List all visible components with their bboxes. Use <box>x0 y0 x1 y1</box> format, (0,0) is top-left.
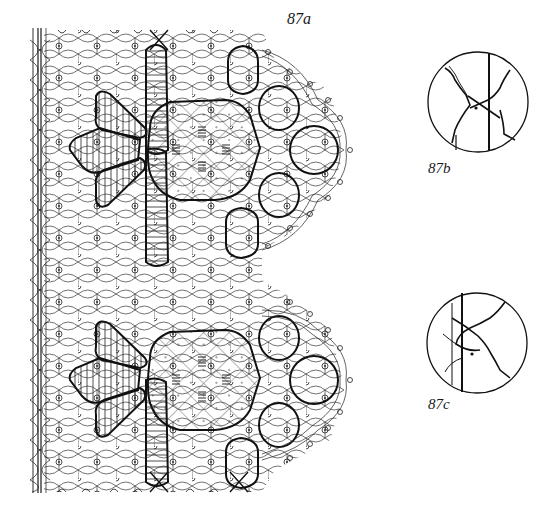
main-lace-pattern-87a <box>0 0 554 509</box>
detail-87c <box>427 293 527 393</box>
detail-87b <box>428 52 528 152</box>
figure-label-87b: 87b <box>428 160 451 177</box>
figure-label-87c: 87c <box>428 396 450 413</box>
lace-diagram-figure: 87a 87b 87c <box>0 0 554 509</box>
figure-label-87a: 87a <box>287 10 311 28</box>
